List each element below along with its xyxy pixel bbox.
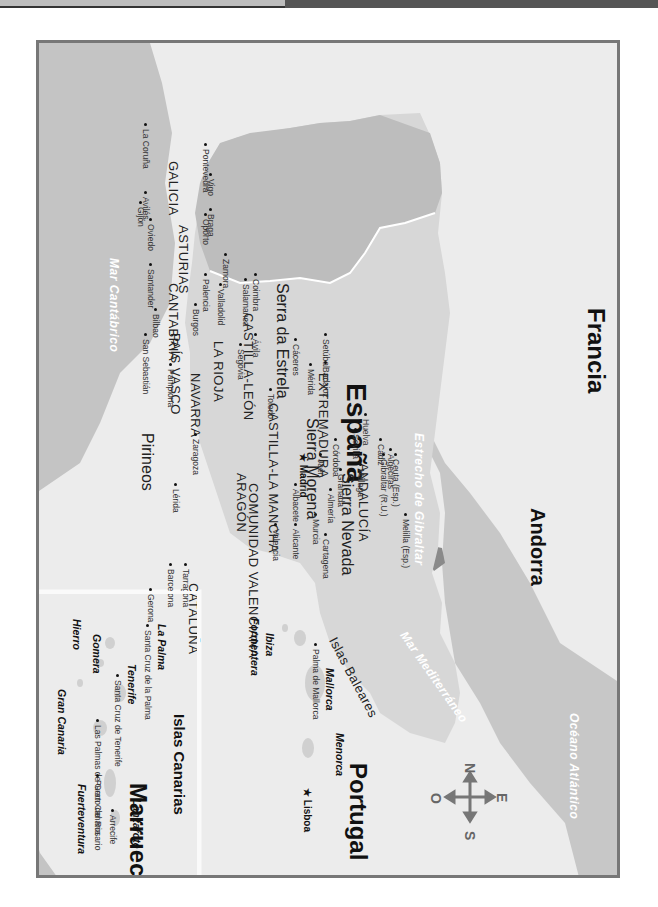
island-tenerife: Tenerife (127, 664, 138, 704)
city-albacete: Albacete (292, 483, 301, 522)
mountain-pirineos: Pirineos (139, 433, 155, 491)
city-badajoz: Badajoz (322, 361, 331, 398)
compass-rose: N S E O (430, 763, 510, 843)
island-menorca: Menorca (335, 733, 346, 776)
city-puerto-del-rosario: Puerto del Rosario (94, 774, 103, 850)
city-bilbao: Bilbao (152, 308, 161, 338)
city-alicante: Alicante (292, 523, 301, 559)
city-gibraltar: Gibraltar (R.U.) (380, 453, 389, 517)
city-santa-cruz-de-tenerife: Santa Cruz de Tenerife (114, 674, 123, 767)
region-galicia: GALICIA (167, 161, 180, 216)
city-vigo: Vigo (207, 173, 216, 196)
city-avila: Ávila (252, 333, 261, 357)
island-gran-canaria: Gran Canaria (57, 689, 68, 755)
mountain-serra-da-estrela: Serra da Estrela (274, 283, 290, 399)
city-melilla: Melilla (Esp.) (402, 513, 411, 568)
sea-estrecho-de-gibraltar: Estrecho de Gibraltar (413, 433, 425, 566)
city-merida: Mérida (307, 363, 316, 395)
city-gijon: Gijón (137, 201, 146, 227)
label-country-portugal: Portugal (346, 763, 370, 860)
city-salamanca: Salamanca (242, 278, 251, 327)
compass-n: N (462, 763, 478, 773)
city-caceres: Cáceres (292, 338, 301, 376)
island-mallorca: Mallorca (325, 668, 336, 711)
island-formentera: Formentera (250, 618, 261, 676)
city-valencia: Valencia (272, 523, 281, 561)
city-lerida: Lérida (172, 483, 181, 513)
city-palma-de-mallorca: Palma de Mallorca (312, 643, 321, 719)
island-ibiza: Ibiza (265, 633, 276, 656)
map-canvas: España Portugal Francia Andorra Marrueco… (36, 43, 620, 878)
city-pamplona: Pamplona (167, 363, 176, 407)
inset-sea-label: Océano Atlántico (36, 694, 37, 800)
city-santander: Santander (147, 263, 156, 308)
label-country-francia: Francia (584, 308, 608, 393)
city-cartagena: Cartagena (322, 533, 331, 579)
city-palencia: Palencia (202, 273, 211, 312)
city-oporto: Oporto (202, 213, 211, 245)
city-burgos: Burgos (192, 303, 201, 336)
compass-s: S (462, 831, 478, 840)
city-coimbra: Coimbra (252, 273, 261, 311)
city-sevilla: Sevilla (352, 428, 361, 459)
inset-title: Islas Canarias (172, 714, 187, 815)
canary-islands-inset: Islas Canarias La Palma Tenerife Gomera … (36, 591, 200, 878)
island-lanzarote: Lanzarote (132, 799, 143, 849)
island-gomera: Gomera (92, 634, 103, 674)
label-country-andorra: Andorra (528, 508, 548, 586)
city-zamora: Zamora (222, 253, 231, 288)
compass-o: O (428, 793, 444, 804)
city-ceuta: Ceuta (Esp.) (392, 453, 401, 507)
city-zaragoza: Zaragoza (192, 433, 201, 475)
city-santa-cruz-de-la-palma: Santa Cruz de la Palma (144, 624, 153, 720)
island-fuerteventura: Fuerteventura (77, 784, 88, 854)
city-huelva: Huelva (362, 413, 371, 445)
city-arrecife: Arrecife (109, 809, 118, 844)
city-malaga: Málaga (357, 463, 366, 497)
city-segovia: Segovia (237, 343, 246, 380)
capital-lisboa: ★ Lisboa (302, 788, 312, 832)
map-frame: España Portugal Francia Andorra Marrueco… (36, 40, 620, 878)
compass-e: E (494, 793, 510, 802)
region-navarra: NAVARRA (189, 373, 202, 437)
city-oviedo: Oviedo (147, 218, 156, 251)
city-san-sebastian: San Sebastián (142, 333, 151, 394)
mountain-sierra-nevada: Sierra Nevada (339, 473, 355, 575)
city-la-coruna: La Coruña (142, 123, 151, 169)
sea-mar-cantabrico: Mar Cantábrico (108, 258, 120, 352)
island-la-palma: La Palma (157, 624, 168, 670)
island-hierro: Hierro (72, 619, 83, 650)
mountain-sierra-morena: Sierra Morena (304, 418, 320, 519)
city-almeria: Almería (327, 488, 336, 523)
sea-oceano-atlantico: Océano Atlántico (568, 713, 580, 819)
page-header-strip-dark (285, 0, 658, 8)
city-valladolid: Valladolid (217, 283, 226, 325)
page-header-strip (0, 0, 285, 8)
region-la-rioja: LA RIOJA (212, 341, 225, 402)
